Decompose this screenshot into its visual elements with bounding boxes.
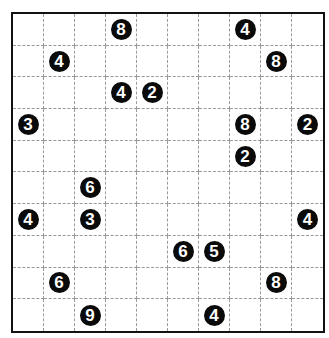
grid-cell-r3-c8[interactable] xyxy=(261,109,292,141)
grid-cell-r7-c4[interactable] xyxy=(137,236,168,268)
grid-cell-r4-c9[interactable] xyxy=(292,141,323,173)
grid-cell-r9-c6[interactable]: 4 xyxy=(199,299,230,331)
grid-cell-r4-c8[interactable] xyxy=(261,141,292,173)
grid-cell-r2-c7[interactable] xyxy=(230,77,261,109)
grid-cell-r7-c0[interactable] xyxy=(13,236,44,268)
grid-cell-r7-c2[interactable] xyxy=(75,236,106,268)
grid-cell-r8-c3[interactable] xyxy=(106,268,137,300)
grid-cell-r3-c0[interactable]: 3 xyxy=(13,109,44,141)
grid-cell-r2-c2[interactable] xyxy=(75,77,106,109)
grid-cell-r0-c3[interactable]: 8 xyxy=(106,14,137,46)
grid-cell-r8-c9[interactable] xyxy=(292,268,323,300)
grid-cell-r6-c5[interactable] xyxy=(168,204,199,236)
grid-cell-r0-c6[interactable] xyxy=(199,14,230,46)
grid-cell-r2-c0[interactable] xyxy=(13,77,44,109)
grid-cell-r4-c3[interactable] xyxy=(106,141,137,173)
grid-cell-r3-c2[interactable] xyxy=(75,109,106,141)
grid-cell-r2-c1[interactable] xyxy=(44,77,75,109)
grid-cell-r7-c1[interactable] xyxy=(44,236,75,268)
grid-cell-r5-c0[interactable] xyxy=(13,172,44,204)
grid-cell-r2-c5[interactable] xyxy=(168,77,199,109)
grid-cell-r1-c3[interactable] xyxy=(106,46,137,78)
grid-cell-r7-c9[interactable] xyxy=(292,236,323,268)
grid-cell-r6-c9[interactable]: 4 xyxy=(292,204,323,236)
grid-cell-r3-c3[interactable] xyxy=(106,109,137,141)
grid-cell-r3-c9[interactable]: 2 xyxy=(292,109,323,141)
grid-cell-r8-c2[interactable] xyxy=(75,268,106,300)
grid-cell-r9-c8[interactable] xyxy=(261,299,292,331)
grid-cell-r1-c6[interactable] xyxy=(199,46,230,78)
grid-cell-r4-c1[interactable] xyxy=(44,141,75,173)
grid-cell-r2-c8[interactable] xyxy=(261,77,292,109)
grid-cell-r1-c0[interactable] xyxy=(13,46,44,78)
grid-cell-r0-c2[interactable] xyxy=(75,14,106,46)
grid-cell-r4-c6[interactable] xyxy=(199,141,230,173)
grid-cell-r1-c4[interactable] xyxy=(137,46,168,78)
grid-cell-r5-c2[interactable]: 6 xyxy=(75,172,106,204)
grid-cell-r7-c6[interactable]: 5 xyxy=(199,236,230,268)
grid-cell-r0-c5[interactable] xyxy=(168,14,199,46)
grid-cell-r2-c4[interactable]: 2 xyxy=(137,77,168,109)
grid-cell-r8-c6[interactable] xyxy=(199,268,230,300)
grid-cell-r1-c2[interactable] xyxy=(75,46,106,78)
grid-cell-r5-c8[interactable] xyxy=(261,172,292,204)
grid-cell-r5-c7[interactable] xyxy=(230,172,261,204)
grid-cell-r5-c9[interactable] xyxy=(292,172,323,204)
grid-cell-r7-c3[interactable] xyxy=(106,236,137,268)
grid-cell-r3-c1[interactable] xyxy=(44,109,75,141)
grid-cell-r4-c5[interactable] xyxy=(168,141,199,173)
grid-cell-r6-c2[interactable]: 3 xyxy=(75,204,106,236)
grid-cell-r5-c4[interactable] xyxy=(137,172,168,204)
grid-cell-r0-c8[interactable] xyxy=(261,14,292,46)
grid-cell-r9-c1[interactable] xyxy=(44,299,75,331)
grid-cell-r8-c4[interactable] xyxy=(137,268,168,300)
grid-cell-r6-c6[interactable] xyxy=(199,204,230,236)
grid-cell-r1-c9[interactable] xyxy=(292,46,323,78)
grid-cell-r0-c7[interactable]: 4 xyxy=(230,14,261,46)
grid-cell-r5-c6[interactable] xyxy=(199,172,230,204)
grid-cell-r9-c9[interactable] xyxy=(292,299,323,331)
grid-cell-r9-c2[interactable]: 9 xyxy=(75,299,106,331)
grid-cell-r8-c1[interactable]: 6 xyxy=(44,268,75,300)
grid-cell-r0-c9[interactable] xyxy=(292,14,323,46)
grid-cell-r1-c8[interactable]: 8 xyxy=(261,46,292,78)
grid-cell-r7-c7[interactable] xyxy=(230,236,261,268)
grid-cell-r3-c4[interactable] xyxy=(137,109,168,141)
grid-cell-r1-c1[interactable]: 4 xyxy=(44,46,75,78)
grid-cell-r0-c0[interactable] xyxy=(13,14,44,46)
grid-cell-r9-c4[interactable] xyxy=(137,299,168,331)
grid-cell-r4-c4[interactable] xyxy=(137,141,168,173)
grid-cell-r5-c5[interactable] xyxy=(168,172,199,204)
grid-cell-r5-c3[interactable] xyxy=(106,172,137,204)
grid-cell-r3-c7[interactable]: 8 xyxy=(230,109,261,141)
grid-cell-r4-c0[interactable] xyxy=(13,141,44,173)
grid-cell-r4-c2[interactable] xyxy=(75,141,106,173)
grid-cell-r2-c3[interactable]: 4 xyxy=(106,77,137,109)
grid-cell-r9-c0[interactable] xyxy=(13,299,44,331)
grid-cell-r3-c6[interactable] xyxy=(199,109,230,141)
grid-cell-r8-c0[interactable] xyxy=(13,268,44,300)
grid-cell-r1-c5[interactable] xyxy=(168,46,199,78)
grid-cell-r6-c0[interactable]: 4 xyxy=(13,204,44,236)
grid-cell-r6-c8[interactable] xyxy=(261,204,292,236)
grid-cell-r6-c3[interactable] xyxy=(106,204,137,236)
grid-cell-r8-c7[interactable] xyxy=(230,268,261,300)
grid-cell-r5-c1[interactable] xyxy=(44,172,75,204)
grid-cell-r7-c8[interactable] xyxy=(261,236,292,268)
grid-cell-r6-c1[interactable] xyxy=(44,204,75,236)
grid-cell-r4-c7[interactable]: 2 xyxy=(230,141,261,173)
grid-cell-r6-c4[interactable] xyxy=(137,204,168,236)
grid-cell-r0-c4[interactable] xyxy=(137,14,168,46)
grid-cell-r9-c5[interactable] xyxy=(168,299,199,331)
grid-cell-r2-c6[interactable] xyxy=(199,77,230,109)
grid-cell-r9-c7[interactable] xyxy=(230,299,261,331)
grid-cell-r8-c5[interactable] xyxy=(168,268,199,300)
grid-cell-r3-c5[interactable] xyxy=(168,109,199,141)
grid-cell-r0-c1[interactable] xyxy=(44,14,75,46)
grid-cell-r2-c9[interactable] xyxy=(292,77,323,109)
grid-cell-r1-c7[interactable] xyxy=(230,46,261,78)
grid-cell-r6-c7[interactable] xyxy=(230,204,261,236)
grid-cell-r7-c5[interactable]: 6 xyxy=(168,236,199,268)
grid-cell-r8-c8[interactable]: 8 xyxy=(261,268,292,300)
grid-cell-r9-c3[interactable] xyxy=(106,299,137,331)
